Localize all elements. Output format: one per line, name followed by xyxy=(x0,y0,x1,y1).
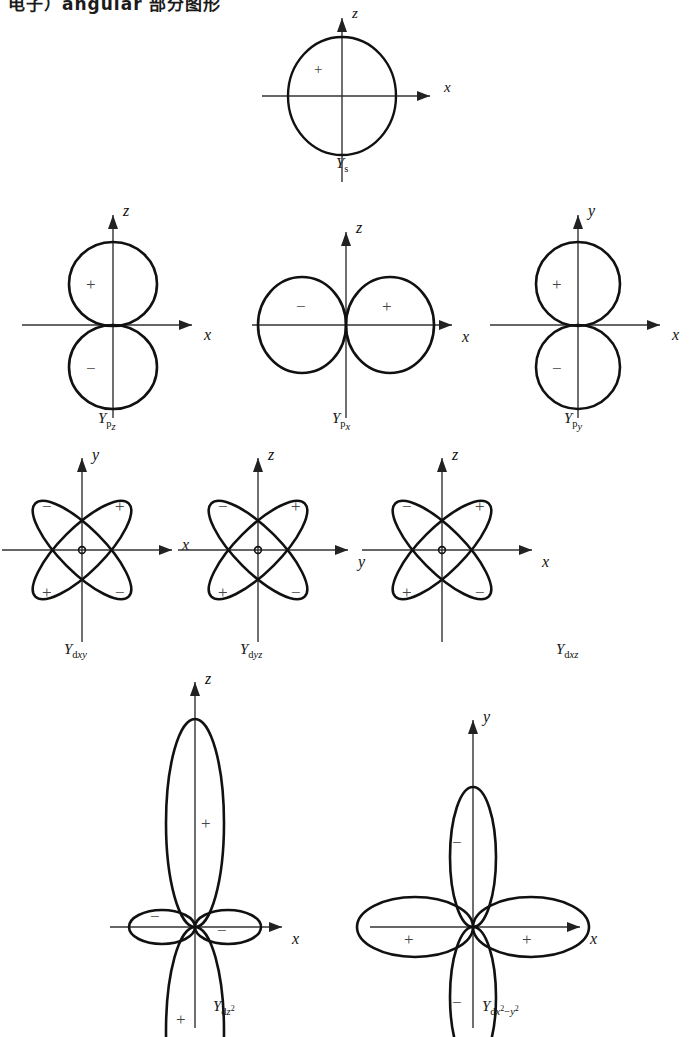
orbital-label-Ypy: Ypy xyxy=(564,410,582,432)
orbital-label-Ypx: Ypx xyxy=(332,410,350,432)
orbital-diagram-Ypx: x z − + xyxy=(252,219,469,418)
axis-label-x-Ys: x xyxy=(443,79,451,95)
axis-label-x-Ydz2: x xyxy=(291,930,299,947)
figure-canvas: 电子）angular 部分图形 x z + Ys xyxy=(0,0,694,1037)
sign-minus: − xyxy=(291,583,301,602)
sign-plus: + xyxy=(42,583,52,602)
orbital-diagram-Ydyz: y z − + + − xyxy=(178,446,366,642)
sign-plus: + xyxy=(522,930,532,949)
axis-label-z-Ys: z xyxy=(351,5,358,21)
sign-plus: + xyxy=(291,497,301,516)
orbital-diagram-Ydx2y2: x y − − + + xyxy=(357,708,597,1037)
label-sub-italic: xy xyxy=(78,649,87,660)
axis-label-y-Ydx2y2: y xyxy=(481,708,491,726)
orbital-diagrams-p: x z + − x z − + xyxy=(0,200,694,430)
sign-plus: + xyxy=(404,930,414,949)
orbital-label-Ydxz: Ydxz xyxy=(556,641,578,660)
sign-minus: − xyxy=(217,921,227,940)
label-sub-italic: x xyxy=(346,421,351,432)
orbital-panel-row-d: x y − + + − y z − + + − xyxy=(0,440,694,660)
axis-label-z-Ypz: z xyxy=(122,202,130,219)
label-sub: s xyxy=(344,163,348,174)
sign-plus: + xyxy=(314,61,322,77)
axis-label-y-Ydyz: y xyxy=(356,553,366,571)
orbital-diagram-Ydxy: x y − + + − xyxy=(2,446,189,642)
axis-label-y-Ypy: y xyxy=(586,202,596,220)
sign-minus: − xyxy=(218,497,228,516)
sign-plus: + xyxy=(176,1010,186,1029)
sign-plus: + xyxy=(382,297,392,316)
sign-minus: − xyxy=(452,993,462,1012)
sign-minus: − xyxy=(402,497,412,516)
sign-minus: − xyxy=(475,583,485,602)
orbital-label-Ydyz: Ydyz xyxy=(240,641,262,660)
orbital-label-Ypz: Ypz xyxy=(98,410,116,432)
label-sub-italic: yz xyxy=(254,649,263,660)
sign-plus: + xyxy=(475,497,485,516)
axis-label-z-Ydz2: z xyxy=(204,670,212,687)
axis-label-y-Ydxy: y xyxy=(90,446,100,464)
sign-minus: − xyxy=(86,359,96,378)
orbital-label-Ydz2: Ydz2 xyxy=(213,998,235,1017)
orbital-diagrams-d2: x z + + − − x y − − + xyxy=(0,670,694,1037)
label-sub-italic: y xyxy=(578,421,583,432)
sign-plus: + xyxy=(552,275,562,294)
orbital-diagram-Ydxz: x z − + + − xyxy=(362,446,549,642)
orbital-label-Ydx2y2: Ydx2−y2 xyxy=(482,998,519,1017)
sign-plus: + xyxy=(402,583,412,602)
orbital-label-Ys: Ys xyxy=(336,155,348,174)
orbital-diagram-Ypz: x z + − xyxy=(22,202,211,418)
sign-minus: − xyxy=(115,583,125,602)
sign-minus: − xyxy=(552,359,562,378)
axis-label-x-Ypz: x xyxy=(203,326,211,343)
axis-label-x-Ydx2y2: x xyxy=(589,930,597,947)
label-sub-italic: z xyxy=(112,421,116,432)
sign-minus: − xyxy=(42,497,52,516)
sign-minus: − xyxy=(296,297,306,316)
axis-label-z-Ypx: z xyxy=(355,219,363,236)
label-sub-italic: xz xyxy=(570,649,579,660)
sign-minus: − xyxy=(150,907,160,926)
sign-minus: − xyxy=(452,833,462,852)
sign-plus: + xyxy=(115,497,125,516)
orbital-panel-row-d2: x z + + − − x y − − + xyxy=(0,670,694,1037)
orbital-diagrams-d: x y − + + − y z − + + − xyxy=(0,440,694,660)
orbital-diagram-Ydz2: x z + + − − xyxy=(110,670,299,1037)
orbital-panel-row-p: x z + − x z − + xyxy=(0,200,694,430)
axis-label-z-Ydyz: z xyxy=(267,446,275,463)
axis-label-z-Ydxz: z xyxy=(451,446,459,463)
orbital-label-Ydxy: Ydxy xyxy=(64,641,87,660)
orbital-diagram-Ypy: x y + − xyxy=(490,202,679,418)
sign-plus: + xyxy=(218,583,228,602)
axis-label-x-Ydxz: x xyxy=(541,553,549,570)
label-sub-sup: 2 xyxy=(231,1004,235,1013)
sign-plus: + xyxy=(201,814,211,833)
sign-plus: + xyxy=(86,275,96,294)
axis-label-x-Ypx: x xyxy=(461,328,469,345)
label-sub-sup2: 2 xyxy=(515,1004,519,1013)
axis-label-x-Ypy: x xyxy=(671,326,679,343)
